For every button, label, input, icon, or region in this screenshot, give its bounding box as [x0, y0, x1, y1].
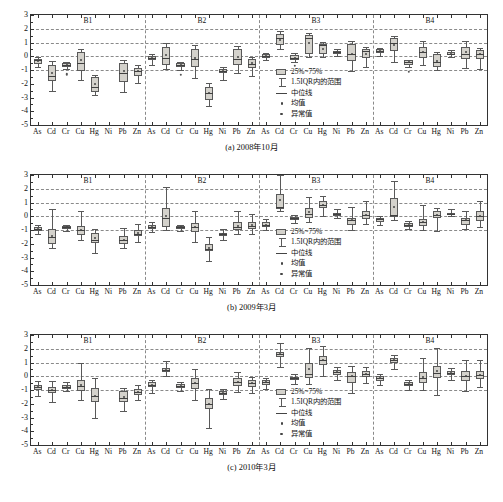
- mean-marker: [479, 215, 481, 217]
- x-tick-mark: [109, 122, 110, 125]
- whisker-cap-upper: [334, 367, 340, 368]
- block-divider: [259, 15, 260, 125]
- y-tick-minor: [31, 22, 33, 23]
- y-tick-mark: [31, 189, 34, 190]
- x-tick-mark-top: [380, 15, 381, 18]
- whisker-cap-upper: [448, 50, 454, 51]
- x-tick-mark: [124, 122, 125, 125]
- x-tick-mark-top: [166, 335, 167, 338]
- block-label-b4: B4: [425, 336, 434, 345]
- whisker-cap-lower: [220, 240, 226, 241]
- mean-marker: [194, 57, 196, 59]
- legend-quartile-label: 25%~75%: [291, 67, 322, 78]
- whisker-cap-upper: [391, 181, 397, 182]
- whisker-cap-upper: [249, 214, 255, 215]
- y-tick-minor: [31, 77, 33, 78]
- whisker-cap-upper: [462, 360, 468, 361]
- mean-marker: [351, 375, 353, 377]
- legend-outlier-icon: [275, 109, 288, 119]
- plot-area-a: 3210-1-2-3-4-5B1B2B3B425%~75%1.5IQR内的范围中…: [30, 14, 488, 126]
- x-tick-mark: [394, 442, 395, 445]
- x-axis-label-b4-cd: Cd: [389, 128, 398, 136]
- mean-marker: [265, 55, 267, 57]
- x-tick-mark-top: [138, 15, 139, 18]
- median-line: [305, 38, 313, 39]
- x-tick-mark-top: [124, 335, 125, 338]
- median-line: [433, 373, 441, 374]
- x-tick-mark: [223, 122, 224, 125]
- whisker-cap-upper: [49, 209, 55, 210]
- x-tick-mark: [223, 282, 224, 285]
- whisker-cap-lower: [420, 65, 426, 66]
- x-tick-mark: [295, 122, 296, 125]
- x-tick-mark-top: [95, 15, 96, 18]
- x-tick-mark: [138, 282, 139, 285]
- x-tick-mark: [223, 442, 224, 445]
- x-tick-mark-top: [38, 335, 39, 338]
- x-axis-label-b3-cd: Cd: [275, 448, 284, 456]
- legend-outlier-icon: [275, 269, 288, 279]
- mean-marker: [37, 386, 39, 388]
- outlier-marker: [179, 74, 181, 76]
- legend-mean-label: 均值: [291, 258, 305, 269]
- y-tick-minor: [31, 424, 33, 425]
- mean-marker: [80, 384, 82, 386]
- x-tick-mark-top: [38, 15, 39, 18]
- x-tick-mark-top: [238, 175, 239, 178]
- x-tick-mark-top: [81, 15, 82, 18]
- x-tick-mark-top: [223, 335, 224, 338]
- mean-marker: [465, 51, 467, 53]
- whisker-cap-upper: [220, 67, 226, 68]
- whisker-cap-lower: [92, 253, 98, 254]
- legend-iqr-label: 1.5IQR内的范围: [291, 237, 341, 248]
- whisker-cap-upper: [477, 201, 483, 202]
- x-tick-mark: [238, 122, 239, 125]
- x-axis-label-b1-as: As: [33, 288, 41, 296]
- x-axis-label-b4-zn: Zn: [475, 448, 483, 456]
- x-axis-label-b1-zn: Zn: [133, 128, 141, 136]
- mean-marker: [151, 384, 153, 386]
- mean-marker: [51, 72, 53, 74]
- x-tick-mark: [209, 442, 210, 445]
- x-tick-mark-top: [466, 175, 467, 178]
- mean-marker: [265, 224, 267, 226]
- x-axis-label-b3-cr: Cr: [290, 128, 298, 136]
- x-axis-label-b1-cr: Cr: [62, 128, 70, 136]
- x-tick-mark: [309, 122, 310, 125]
- x-axis-label-b2-hg: Hg: [203, 128, 212, 136]
- whisker-cap-upper: [334, 209, 340, 210]
- x-tick-mark-top: [209, 335, 210, 338]
- x-axis-label-b3-cr: Cr: [290, 448, 298, 456]
- x-axis-label-b1-cr: Cr: [62, 448, 70, 456]
- mean-marker: [365, 53, 367, 55]
- mean-marker: [237, 381, 239, 383]
- whisker-cap-upper: [206, 83, 212, 84]
- x-axis-label-b2-cu: Cu: [189, 128, 198, 136]
- median-line: [233, 59, 241, 60]
- x-tick-mark: [394, 282, 395, 285]
- x-tick-mark-top: [38, 175, 39, 178]
- median-line: [119, 73, 127, 74]
- outlier-marker: [65, 73, 67, 75]
- x-tick-mark: [480, 122, 481, 125]
- x-axis-label-b4-as: As: [375, 448, 383, 456]
- x-tick-mark: [280, 442, 281, 445]
- y-tick-mark: [31, 376, 34, 377]
- median-line: [77, 386, 85, 387]
- whisker-cap-lower: [49, 91, 55, 92]
- mean-marker: [393, 359, 395, 361]
- x-tick-mark-top: [366, 175, 367, 178]
- y-tick-label: -4: [21, 427, 28, 435]
- whisker-cap-lower: [206, 261, 212, 262]
- mean-marker: [194, 382, 196, 384]
- whisker-cap-lower: [334, 218, 340, 219]
- mean-marker: [379, 218, 381, 220]
- mean-marker: [66, 64, 68, 66]
- whisker-cap-upper: [363, 367, 369, 368]
- x-tick-mark-top: [166, 175, 167, 178]
- x-tick-mark-top: [352, 335, 353, 338]
- whisker-cap-upper: [348, 41, 354, 42]
- y-tick-minor: [31, 223, 33, 224]
- panel-a: 3210-1-2-3-4-5B1B2B3B425%~75%1.5IQR内的范围中…: [0, 0, 503, 160]
- whisker-cap-lower: [177, 391, 183, 392]
